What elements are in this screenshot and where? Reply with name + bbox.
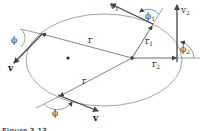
label-phi-upper: ϕ: [11, 35, 17, 45]
figure-caption: Figure 3.13: [2, 127, 47, 131]
label-phi-lower: ϕ: [52, 108, 58, 118]
r-lower-line: [60, 58, 132, 96]
label-r1: r1: [145, 36, 153, 47]
label-r2: r2: [152, 59, 160, 70]
label-phi1: ϕ1: [145, 11, 155, 22]
phi-upper-arc: [21, 30, 25, 47]
r-lower-extension: [36, 96, 60, 108]
label-r-upper: r: [88, 35, 93, 45]
label-v-lower: v: [92, 113, 99, 123]
orbit-diagram: v1 ϕ1 v2 ϕ2 r1 r2 r r ϕ ϕ v v Figure 3.1…: [0, 0, 206, 131]
center-dot: [66, 56, 69, 59]
elliptical-orbit: [26, 14, 182, 106]
v-upper-vector: [14, 34, 42, 63]
r-upper-line: [42, 34, 132, 58]
label-v2: v2: [180, 5, 190, 16]
label-r-lower: r: [82, 76, 87, 86]
label-v-upper: v: [7, 63, 14, 73]
label-v1: v1: [109, 1, 119, 12]
